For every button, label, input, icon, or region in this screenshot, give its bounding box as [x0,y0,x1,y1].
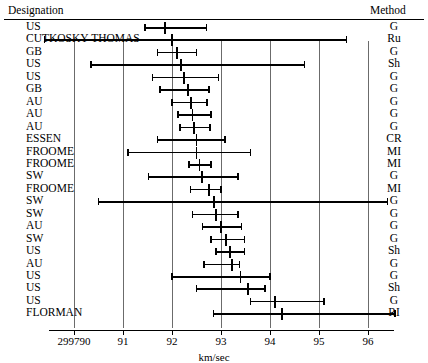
ci-cap-low [190,186,192,193]
ci-cap-high [237,173,239,180]
confidence-interval-bar [211,239,244,241]
ci-cap-low [188,161,190,168]
confidence-interval-bar [191,189,221,191]
tick-label-92: 92 [167,335,178,347]
row-designation-label: US [26,281,41,293]
confidence-interval-bar [204,264,240,266]
table-row: USG [0,21,428,33]
row-method-label: G [390,70,398,82]
estimate-marker [187,84,189,96]
table-row: FROOMEMI [0,146,428,158]
estimate-marker [171,34,173,46]
ci-cap-high [239,261,241,268]
ci-cap-low [98,198,100,205]
table-row: SWG [0,233,428,245]
estimate-marker [199,159,201,171]
ci-cap-high [208,86,210,93]
ci-cap-low [159,86,161,93]
row-method-label: G [390,20,398,32]
confidence-interval-bar [148,176,238,178]
table-row: GBG [0,46,428,58]
row-designation-label: GB [26,45,42,57]
row-designation-label: FLORMAN [26,306,82,318]
table-row: USG [0,71,428,83]
ci-cap-high [206,24,208,31]
row-designation-label: AU [26,107,43,119]
ci-cap-high [387,198,389,205]
confidence-interval-bar [152,77,218,79]
row-designation-label: ESSEN [26,132,61,144]
ci-cap-high [269,273,271,280]
tick-label-93: 93 [216,335,227,347]
confidence-interval-bar [45,39,347,41]
row-designation-label: AU [26,95,43,107]
row-designation-label: SW [26,194,43,206]
ci-cap-high [237,211,239,218]
estimate-marker [192,109,194,121]
row-method-label: MI [387,157,401,169]
ci-cap-low [179,124,181,131]
ci-cap-high [250,149,252,156]
ci-cap-high [304,61,306,68]
row-method-label: G [390,107,398,119]
row-method-label: G [390,194,398,206]
estimate-marker [193,122,195,134]
table-row: AUG [0,220,428,232]
method-column-header: Method [370,4,406,16]
estimate-marker [281,308,283,320]
estimate-marker [164,22,166,34]
ci-cap-low [171,99,173,106]
row-method-label: Ru [387,32,400,44]
row-designation-label: US [26,244,41,256]
ci-cap-low [90,61,92,68]
confidence-interval-bar [172,276,270,278]
confidence-interval-bar [145,27,206,29]
ci-cap-high [210,111,212,118]
ci-cap-low [202,223,204,230]
row-designation-label: US [26,20,41,32]
row-method-label: MI [387,145,401,157]
estimate-marker [183,72,185,84]
table-row: USG [0,295,428,307]
row-designation-label: AU [26,257,43,269]
table-row: USSh [0,245,428,257]
row-method-label: Sh [388,281,400,293]
tick-label-95: 95 [314,335,325,347]
table-row: SWG [0,170,428,182]
confidence-interval-bar [160,89,209,91]
estimate-marker [274,296,276,308]
row-designation-label: GB [26,82,42,94]
confidence-interval-bar [91,64,304,66]
estimate-marker [196,134,198,146]
table-row: FROOMEMI [0,158,428,170]
table-row: SWG [0,208,428,220]
estimate-marker [247,283,249,295]
row-method-label: G [390,45,398,57]
ci-cap-low [250,298,252,305]
table-row: CUTKOSKY-THOMASRu [0,33,428,45]
table-row: USSh [0,58,428,70]
estimate-marker [190,97,192,109]
tick-label-94: 94 [265,335,276,347]
table-row: AUG [0,108,428,120]
row-designation-label: FROOME [26,182,74,194]
confidence-interval-bar [180,127,210,129]
row-designation-label: SW [26,169,43,181]
estimate-marker [229,246,231,258]
ci-cap-low [148,173,150,180]
tick-label-96: 96 [363,335,374,347]
row-method-label: G [390,269,398,281]
tick-label-299790: 299790 [58,335,91,347]
x-axis-label: km/sec [0,351,428,363]
row-method-label: G [390,219,398,231]
estimate-marker [176,47,178,59]
row-designation-label: US [26,70,41,82]
ci-cap-low [157,136,159,143]
ci-cap-low [177,111,179,118]
ci-cap-low [152,74,154,81]
estimate-marker [213,196,215,208]
row-method-label: G [390,232,398,244]
ci-cap-high [264,285,266,292]
ci-cap-high [241,223,243,230]
estimate-marker [215,209,217,221]
